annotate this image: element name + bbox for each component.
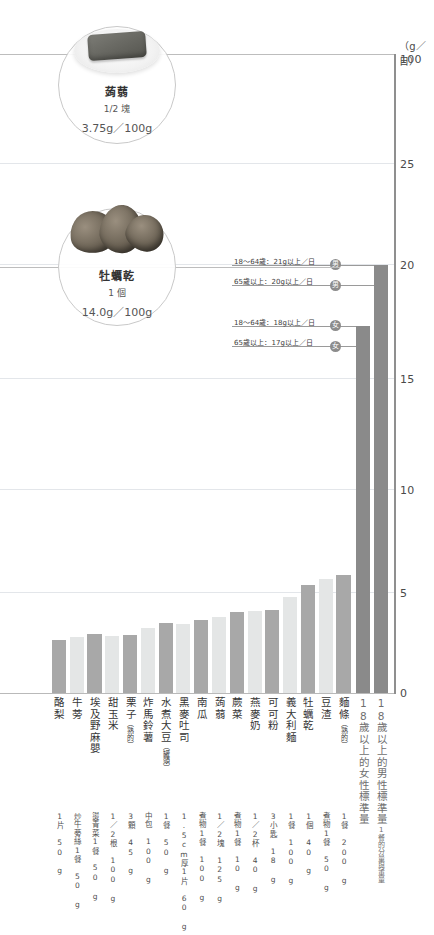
bar-10: [230, 612, 244, 693]
reference-label-2: 18〜64歲：18g以上／日: [234, 317, 316, 327]
bar-3: [105, 636, 119, 693]
plate-shape: [74, 29, 160, 73]
y-tick-20: 20: [400, 260, 414, 271]
bar-2: [87, 634, 101, 693]
category-label-12: 可可粉: [266, 697, 277, 732]
serving-label-7: 1.5cm厚1片 60 g: [179, 812, 188, 931]
bar-9: [212, 617, 226, 694]
serving-size-row: 1片 50 g炒牛蒡絲1餐 50 g燙青菜1餐 50 g1／2根 100 g3顆…: [0, 812, 394, 932]
gender-badge-male-1: 男: [330, 280, 341, 291]
nutrition-bar-chart-page: （g／日） 100 25 20 15 10 5 0 18〜64歲：21g以上／日…: [0, 0, 434, 935]
category-label-9: 蒟蒻: [213, 697, 224, 720]
category-label-1: 牛蒡: [71, 697, 82, 720]
callout-konjac: 蒟蒻 1/2 塊 3.75g／100g: [58, 26, 176, 144]
category-label-15: 豆渣: [320, 697, 331, 720]
category-label-10: 蕨菜: [231, 697, 242, 720]
y-axis-line: [394, 54, 396, 694]
category-label-6: 水煮大豆（罐頭）: [160, 697, 171, 771]
category-note-4: （熟的）: [126, 720, 134, 748]
reference-label-3: 65歲以上：17g以上／日: [234, 337, 314, 347]
category-label-7: 黑麥吐司: [177, 697, 188, 743]
serving-label-4: 3顆 45 g: [126, 812, 135, 876]
serving-label-15: 煮物1餐 50 g: [321, 812, 330, 893]
konjac-icon: [74, 29, 160, 73]
callout-oyster-title: 牡蠣乾: [59, 267, 175, 283]
bar-1: [70, 637, 84, 693]
callout-konjac-serving: 1/2 塊: [59, 102, 175, 115]
serving-label-9: 1／2塊 125 g: [215, 812, 224, 903]
serving-label-5: 中包 100 g: [143, 812, 152, 884]
category-label-13: 義大利麵: [284, 697, 295, 743]
callout-oyster-value: 14.0g／100g: [59, 303, 175, 319]
callout-konjac-value: 3.75g／100g: [59, 119, 175, 135]
callout-konjac-title: 蒟蒻: [59, 83, 175, 99]
serving-label-13: 1餐 100 g: [286, 812, 295, 885]
bar-13: [283, 597, 297, 693]
serving-label-1: 炒牛蒡絲1餐 50 g: [72, 812, 81, 909]
serving-label-10: 煮物1餐 10 g: [232, 812, 241, 893]
bar-7: [176, 624, 190, 693]
serving-label-11: 1／2杯 40 g: [250, 812, 259, 894]
serving-label-8: 煮物1餐 100 g: [197, 812, 206, 902]
category-note-16: （熟的）: [340, 720, 348, 748]
bar-6: [159, 623, 173, 693]
y-tick-100: 100: [400, 54, 422, 65]
category-label-3: 甜玉米: [106, 697, 117, 732]
category-label-11: 燕麥奶: [249, 697, 260, 732]
callout-oyster-serving: 1 個: [59, 286, 175, 299]
category-label-2: 埃及野麻嬰: [89, 697, 100, 755]
bar-0: [52, 640, 66, 693]
leader-line-konjac: [0, 54, 394, 55]
bar-4: [123, 635, 137, 693]
bar-16: [336, 575, 350, 693]
bar-8: [194, 620, 208, 693]
bar-18: [374, 265, 388, 693]
y-tick-15: 15: [400, 374, 414, 385]
oyster-cluster-shape: [70, 205, 164, 257]
serving-label-14: 1個 40 g: [303, 812, 312, 876]
bar-14: [301, 585, 315, 693]
bar-17: [356, 326, 370, 693]
category-label-17: 18歲以上的女性標準量: [357, 697, 368, 826]
reference-label-1: 65歲以上：20g以上／日: [234, 276, 314, 286]
reference-label-0: 18〜64歲：21g以上／日: [234, 256, 316, 266]
gridline-0: [0, 693, 394, 694]
gender-badge-female-3: 女: [330, 341, 341, 352]
category-axis-labels: 酪梨牛蒡埃及野麻嬰甜玉米栗子（熟的）炸馬鈴薯水煮大豆（罐頭）黑麥吐司南瓜蒟蒻蕨菜…: [0, 697, 394, 817]
bar-12: [265, 610, 279, 693]
callout-dried-oyster: 牡蠣乾 1 個 14.0g／100g: [58, 208, 176, 326]
y-tick-0: 0: [400, 688, 407, 699]
bar-15: [319, 579, 333, 693]
y-tick-5: 5: [400, 588, 407, 599]
konjac-block-shape: [87, 31, 147, 61]
serving-label-0: 1片 50 g: [54, 812, 63, 876]
category-label-16: 麵條（熟的）: [338, 697, 349, 748]
serving-label-3: 1／2根 100 g: [108, 812, 117, 903]
plot-area: （g／日） 100 25 20 15 10 5 0 18〜64歲：21g以上／日…: [0, 0, 434, 700]
category-label-4: 栗子（熟的）: [124, 697, 135, 748]
category-label-0: 酪梨: [53, 697, 64, 720]
dried-oyster-icon: [70, 205, 164, 257]
serving-label-16: 1餐 200 g: [339, 812, 348, 885]
category-label-5: 炸馬鈴薯: [142, 697, 153, 743]
serving-label-6: 1餐 50 g: [161, 812, 170, 876]
bar-5: [141, 628, 155, 693]
serving-label-2: 燙青菜1餐 50 g: [90, 812, 99, 901]
category-label-14: 牡蠣乾: [302, 697, 313, 732]
category-note-6: （罐頭）: [162, 743, 170, 771]
serving-label-12: 3小匙 18 g: [268, 812, 277, 884]
category-label-8: 南瓜: [195, 697, 206, 720]
bar-11: [248, 611, 262, 693]
y-tick-25: 25: [400, 159, 414, 170]
y-tick-10: 10: [400, 485, 414, 496]
